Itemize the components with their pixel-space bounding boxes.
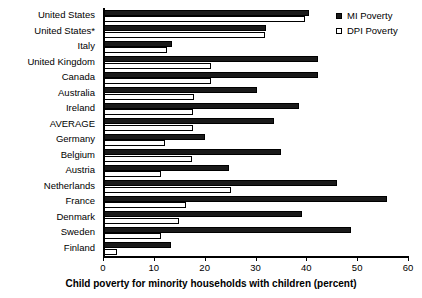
x-axis-tick [256, 257, 257, 261]
bar-group [103, 179, 408, 195]
category-label: Sweden [61, 227, 95, 237]
bar-dpi-poverty [103, 202, 186, 208]
category-label: Netherlands [44, 181, 95, 191]
category-label: United States [38, 10, 95, 20]
legend: MI Poverty DPI Poverty [336, 9, 398, 39]
bar-dpi-poverty [103, 78, 211, 84]
legend-label-dpi-poverty: DPI Poverty [347, 24, 398, 37]
bar-dpi-poverty [103, 94, 194, 100]
x-axis-tick [205, 257, 206, 261]
bar-group [103, 148, 408, 164]
x-axis-tick [306, 257, 307, 261]
bar-group [103, 225, 408, 241]
bar-dpi-poverty [103, 63, 211, 69]
category-label: United States* [34, 26, 95, 36]
category-label: Ireland [66, 103, 95, 113]
bar-mi-poverty [103, 242, 171, 248]
bar-chart: United StatesUnited States*ItalyUnited K… [0, 0, 422, 298]
bar-group [103, 210, 408, 226]
x-axis-tick [408, 257, 409, 261]
category-label: Australia [58, 88, 95, 98]
y-axis-line [103, 8, 105, 257]
bar-mi-poverty [103, 72, 318, 78]
x-axis-title: Child poverty for minority households wi… [0, 278, 422, 289]
x-axis-tick-label: 60 [403, 262, 414, 273]
bar-group [103, 117, 408, 133]
bar-group [103, 132, 408, 148]
category-axis-labels: United StatesUnited States*ItalyUnited K… [0, 8, 99, 256]
plot-area [103, 8, 408, 256]
bar-group [103, 163, 408, 179]
x-axis-tick-label: 20 [199, 262, 210, 273]
bar-dpi-poverty [103, 187, 231, 193]
bar-mi-poverty [103, 25, 266, 31]
bar-mi-poverty [103, 211, 302, 217]
bar-dpi-poverty [103, 218, 179, 224]
bar-dpi-poverty [103, 233, 161, 239]
category-label: Belgium [61, 150, 95, 160]
legend-label-mi-poverty: MI Poverty [347, 9, 392, 22]
category-label: France [65, 196, 95, 206]
bar-mi-poverty [103, 118, 274, 124]
bar-group [103, 55, 408, 71]
bar-mi-poverty [103, 149, 281, 155]
bar-mi-poverty [103, 87, 257, 93]
bar-dpi-poverty [103, 47, 167, 53]
x-axis-tick-label: 30 [250, 262, 261, 273]
bar-dpi-poverty [103, 16, 305, 22]
bar-group [103, 101, 408, 117]
bar-dpi-poverty [103, 156, 192, 162]
category-label: Canada [62, 72, 95, 82]
x-axis-tick [357, 257, 358, 261]
x-axis-tick [103, 257, 104, 261]
category-label: Germany [56, 134, 95, 144]
category-label: AVERAGE [50, 119, 95, 129]
bar-mi-poverty [103, 10, 309, 16]
x-axis-tick [154, 257, 155, 261]
x-axis-tick-label: 50 [352, 262, 363, 273]
bar-mi-poverty [103, 227, 351, 233]
bar-group [103, 86, 408, 102]
legend-item-dpi-poverty: DPI Poverty [336, 24, 398, 37]
filled-square-icon [336, 13, 342, 19]
bar-group [103, 70, 408, 86]
bar-mi-poverty [103, 134, 205, 140]
legend-item-mi-poverty: MI Poverty [336, 9, 398, 22]
category-label: Austria [65, 165, 95, 175]
bar-dpi-poverty [103, 171, 161, 177]
open-square-icon [336, 28, 342, 34]
bar-dpi-poverty [103, 109, 193, 115]
category-label: Finland [64, 243, 95, 253]
bar-mi-poverty [103, 196, 387, 202]
bar-mi-poverty [103, 41, 172, 47]
bar-group [103, 194, 408, 210]
x-axis-tick-label: 10 [149, 262, 160, 273]
bar-mi-poverty [103, 56, 318, 62]
bar-mi-poverty [103, 180, 337, 186]
category-label: Italy [78, 41, 95, 51]
bar-group [103, 241, 408, 257]
x-axis-tick-label: 40 [301, 262, 312, 273]
category-label: Denmark [56, 212, 95, 222]
bar-dpi-poverty [103, 125, 193, 131]
bar-dpi-poverty [103, 140, 165, 146]
bar-dpi-poverty [103, 32, 265, 38]
bar-mi-poverty [103, 165, 229, 171]
bar-group [103, 39, 408, 55]
bar-mi-poverty [103, 103, 299, 109]
category-label: United Kingdom [27, 57, 95, 67]
bar-dpi-poverty [103, 249, 117, 255]
x-axis-tick-label: 0 [100, 262, 105, 273]
